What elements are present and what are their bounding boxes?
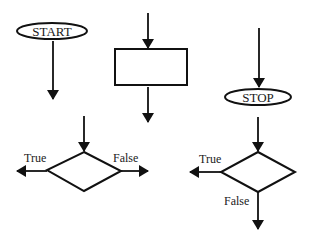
decision-right-diamond (221, 152, 295, 192)
flowchart-symbols-diagram: START STOP True False True False (0, 0, 311, 240)
decision-left-diamond (47, 152, 121, 191)
start-terminal: START (17, 23, 87, 39)
decision-right-true-label: True (199, 152, 221, 166)
process-box (115, 49, 187, 85)
decision-left-false-label: False (113, 151, 138, 165)
stop-label: STOP (242, 90, 274, 105)
start-label: START (32, 24, 71, 39)
stop-terminal: STOP (225, 89, 291, 105)
decision-right-false-label: False (224, 194, 249, 208)
decision-left-true-label: True (24, 151, 46, 165)
